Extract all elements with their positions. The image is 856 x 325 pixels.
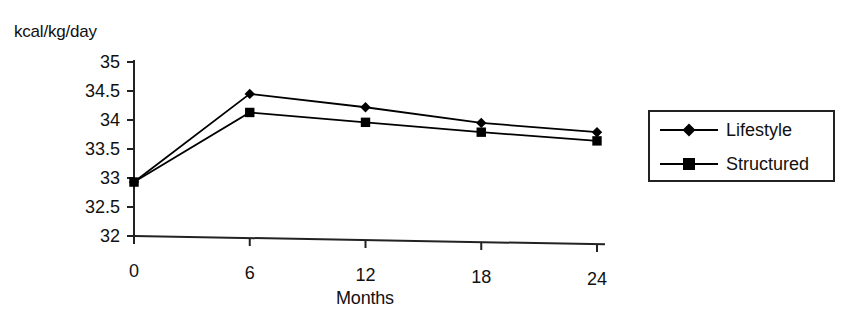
legend-item-structured: Structured: [650, 146, 833, 182]
data-point-lifestyle: [360, 102, 370, 112]
legend-label-structured: Structured: [726, 154, 809, 175]
data-point-structured: [477, 127, 486, 136]
legend-label-lifestyle: Lifestyle: [726, 120, 792, 141]
data-point-lifestyle: [592, 127, 602, 137]
chart-legend: Lifestyle Structured: [648, 110, 835, 182]
square-marker-icon: [658, 154, 720, 174]
data-point-structured: [361, 118, 370, 127]
data-point-structured: [592, 136, 601, 145]
x-axis-title: Months: [0, 288, 730, 309]
data-point-lifestyle: [476, 118, 486, 128]
chart-figure: kcal/kg/day 3232.53333.53434.535 0612182…: [0, 0, 856, 325]
legend-item-lifestyle: Lifestyle: [650, 112, 833, 148]
data-point-structured: [129, 177, 138, 186]
diamond-marker-icon: [658, 120, 720, 140]
x-axis-line: [134, 236, 605, 244]
data-point-structured: [245, 108, 254, 117]
